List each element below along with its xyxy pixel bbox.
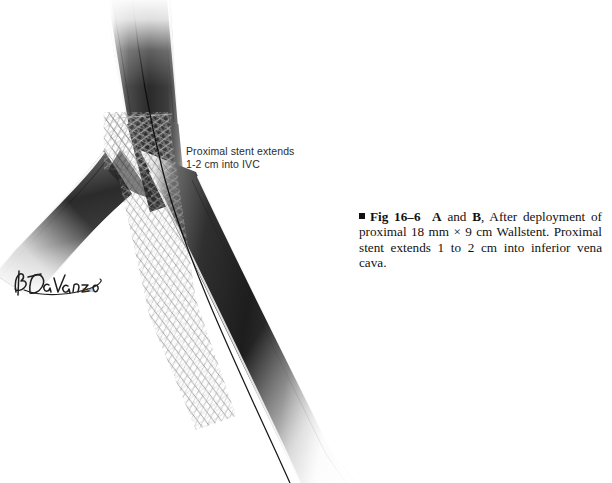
caption-figure-number: Fig 16–6 (370, 209, 420, 224)
caption-conjunction: and (442, 209, 473, 224)
caption-bullet-icon (359, 213, 365, 219)
caption-panel-a: A (432, 209, 442, 224)
vessel-illustration-svg (0, 0, 360, 483)
caption-times-symbol: × (453, 224, 460, 239)
caption-space (420, 209, 432, 224)
figure-page: Proximal stent extends 1-2 cm into IVC (0, 0, 612, 483)
signature-credential: CMI (82, 287, 93, 293)
caption-panel-b: B (472, 209, 481, 224)
medical-illustration (0, 0, 360, 483)
annotation-proximal-stent: Proximal stent extends 1-2 cm into IVC (186, 145, 336, 171)
artist-signature (8, 268, 118, 302)
signature-svg (8, 268, 118, 302)
figure-caption: Fig 16–6 A and B, After deployment of pr… (359, 209, 602, 271)
proximal-fade (96, 0, 196, 126)
